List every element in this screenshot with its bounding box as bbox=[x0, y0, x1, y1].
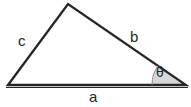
side-label-a: a bbox=[89, 89, 97, 104]
side-label-b: b bbox=[130, 29, 138, 44]
angle-label-theta: θ bbox=[156, 65, 164, 79]
side-label-c: c bbox=[18, 33, 26, 48]
triangle-diagram: c b a θ bbox=[0, 0, 191, 107]
